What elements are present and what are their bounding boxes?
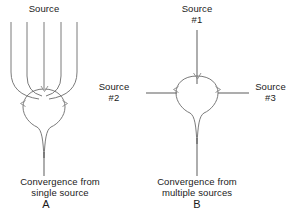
fan-branch — [27, 22, 42, 96]
panel-b-caption-line-1: Convergence from — [142, 176, 252, 187]
panel-a-graphics — [11, 22, 77, 176]
fan-branch — [11, 22, 39, 99]
panel-b-graphics — [146, 30, 249, 176]
panel-b-source-2-label-line-2: #2 — [88, 92, 140, 103]
convergence-figure: Source Convergence from single source A … — [0, 0, 290, 212]
panel-b-caption-line-2: multiple sources — [142, 187, 252, 198]
panel-b-letter: B — [168, 198, 226, 210]
panel-a-caption-line-2: single source — [0, 187, 120, 198]
panel-b-source-3-label-line-1: Source — [251, 81, 290, 92]
panel-a-node-bulb — [23, 89, 65, 158]
fan-branch — [49, 22, 77, 99]
panel-a-source-label: Source — [14, 3, 74, 14]
panel-b-source-1-label-line-1: Source — [168, 3, 226, 14]
panel-b-node-bulb — [176, 76, 218, 144]
panel-a-caption-line-1: Convergence from — [0, 176, 120, 187]
panel-b-source-2-label-line-1: Source — [88, 81, 140, 92]
panel-b-source-3-label-line-2: #3 — [251, 92, 290, 103]
panel-a-letter: A — [16, 198, 76, 210]
panel-b-source-1-label-line-2: #1 — [168, 14, 226, 25]
panel-a-fan-branches — [11, 22, 77, 99]
fan-branch — [46, 22, 61, 96]
